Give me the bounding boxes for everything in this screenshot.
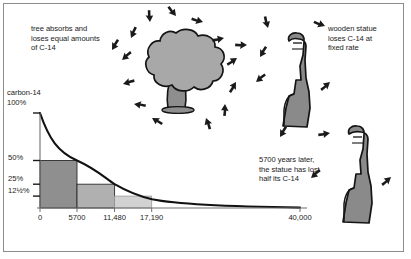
y-tick-label-25: 25% <box>8 174 23 183</box>
caption-statue-top: wooden statue loses C-14 at fixed rate <box>328 24 377 53</box>
caption-tree: tree absorbs and loses equal amounts of … <box>31 24 100 53</box>
figure-root: 50% 25% 12½% 0 5700 11,480 17,190 40,000 <box>0 0 411 259</box>
x-ticks <box>40 208 300 212</box>
half-life-bars <box>40 161 152 209</box>
y-tick-label-50: 50% <box>8 153 23 162</box>
y-ticks <box>33 113 40 196</box>
x-tick-label-5700: 5700 <box>69 213 86 222</box>
x-tick-label-17190: 17,190 <box>140 213 163 222</box>
y-tick-label-12-5: 12½% <box>8 186 30 195</box>
x-tick-label-11480: 11,480 <box>103 213 126 222</box>
x-tick-label-40000: 40,000 <box>288 213 311 222</box>
caption-statue-half: 5700 years later, the statue has lost ha… <box>259 155 320 184</box>
x-tick-label-0: 0 <box>38 213 42 222</box>
axis-title: carbon-14 100% <box>7 88 41 107</box>
